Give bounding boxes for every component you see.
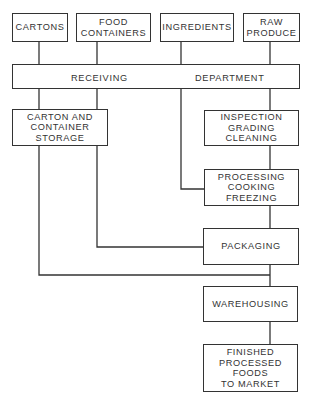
box-raw-produce-line1: RAW — [260, 17, 283, 28]
box-food-containers: FOOD CONTAINERS — [76, 13, 151, 42]
inspection-line2: GRADING — [228, 123, 275, 134]
box-cartons: CARTONS — [12, 13, 68, 42]
finished-line3: FOODS — [233, 368, 269, 379]
box-raw-produce: RAW PRODUCE — [243, 13, 300, 42]
box-cartons-label: CARTONS — [16, 22, 65, 33]
box-ingredients-label: INGREDIENTS — [162, 22, 231, 33]
box-finished-foods: FINISHED PROCESSED FOODS TO MARKET — [203, 344, 298, 392]
finished-line2: PROCESSED — [219, 358, 282, 369]
processing-line2: COOKING — [228, 182, 276, 193]
box-processing: PROCESSING COOKING FREEZING — [204, 169, 299, 206]
receiving-department-bar: RECEIVING DEPARTMENT — [12, 64, 300, 89]
storage-line2: CONTAINER — [31, 122, 90, 133]
processing-line3: FREEZING — [226, 193, 277, 204]
finished-line1: FINISHED — [227, 347, 275, 358]
box-carton-container-storage: CARTON AND CONTAINER STORAGE — [12, 109, 108, 146]
department-label: DEPARTMENT — [195, 73, 264, 83]
inspection-line1: INSPECTION — [220, 112, 282, 123]
box-inspection: INSPECTION GRADING CLEANING — [204, 110, 299, 146]
box-packaging: PACKAGING — [203, 228, 299, 265]
processing-line1: PROCESSING — [218, 172, 285, 183]
storage-line3: STORAGE — [36, 133, 85, 144]
box-ingredients: INGREDIENTS — [160, 13, 234, 42]
inspection-line3: CLEANING — [226, 133, 278, 144]
warehousing-label: WAREHOUSING — [212, 299, 289, 310]
finished-line4: TO MARKET — [221, 379, 280, 390]
storage-line1: CARTON AND — [27, 112, 93, 123]
box-raw-produce-line2: PRODUCE — [246, 28, 296, 39]
box-food-containers-line2: CONTAINERS — [81, 28, 147, 39]
receiving-label: RECEIVING — [71, 73, 128, 83]
box-food-containers-line1: FOOD — [99, 17, 128, 28]
box-warehousing: WAREHOUSING — [203, 286, 298, 322]
packaging-label: PACKAGING — [221, 241, 280, 252]
